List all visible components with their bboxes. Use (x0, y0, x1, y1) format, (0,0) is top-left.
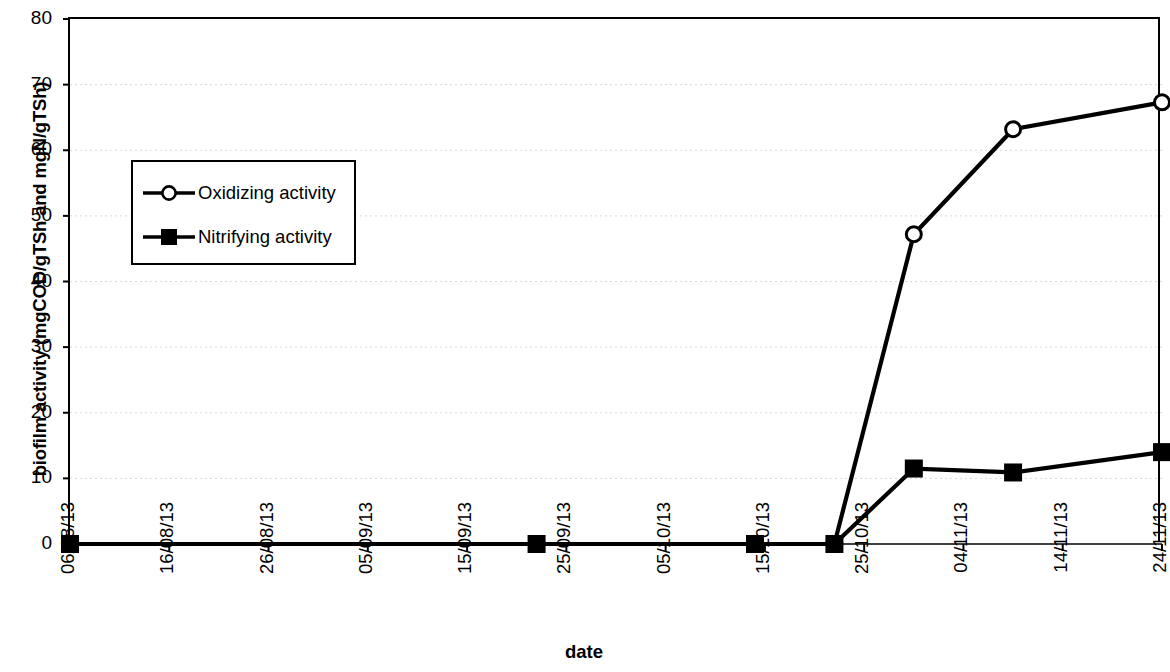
open-circle-marker-icon (141, 182, 197, 204)
x-axis-tick-label: 15/09/13 (456, 502, 474, 612)
y-axis-tick-label: 40 (6, 270, 52, 289)
legend-item-oxidizing: Oxidizing activity (141, 180, 336, 206)
data-point-oxidizing (1155, 95, 1170, 110)
x-axis-tick-label: 05/09/13 (357, 502, 375, 612)
x-axis-tick-label: 24/11/13 (1151, 502, 1169, 612)
data-point-nitrifying (906, 461, 922, 477)
plot-svg (70, 19, 1162, 544)
data-point-oxidizing (1006, 122, 1021, 137)
series-line-nitrifying (70, 452, 1162, 544)
x-axis-tick-label: 26/08/13 (258, 502, 276, 612)
data-point-nitrifying (1005, 464, 1021, 480)
x-axis-title: date (0, 641, 1168, 663)
x-axis-tick-label: 25/10/13 (853, 502, 871, 612)
x-axis-tick-label: 16/08/13 (158, 502, 176, 612)
y-axis-tick-label: 60 (6, 139, 52, 158)
y-axis-tick-label: 50 (6, 204, 52, 223)
y-axis-tick-label: 10 (6, 467, 52, 486)
x-axis-tick-label: 15/10/13 (754, 502, 772, 612)
y-axis-tick-label: 20 (6, 401, 52, 420)
legend-label-nitrifying: Nitrifying activity (198, 228, 332, 247)
filled-square-marker-icon (141, 226, 197, 248)
x-axis-tick-labels: 06/08/1316/08/1326/08/1305/09/1315/09/13… (0, 548, 1168, 648)
x-axis-tick-label: 06/08/13 (59, 502, 77, 612)
plot-area (68, 17, 1160, 542)
x-axis-tick-label: 14/11/13 (1052, 502, 1070, 612)
series-layer (62, 19, 1170, 552)
y-axis-tick-label: 30 (6, 336, 52, 355)
y-axis-tick-label: 70 (6, 73, 52, 92)
legend-item-nitrifying: Nitrifying activity (141, 224, 332, 250)
legend-label-oxidizing: Oxidizing activity (198, 184, 336, 203)
x-axis-tick-label: 05/10/13 (655, 502, 673, 612)
data-point-oxidizing (906, 227, 921, 242)
y-axis-tick-label: 80 (6, 8, 52, 27)
chart-legend: Oxidizing activity Nitrifying activity (131, 160, 356, 265)
x-axis-tick-label: 25/09/13 (555, 502, 573, 612)
data-point-nitrifying (1154, 444, 1170, 460)
x-axis-tick-label: 04/11/13 (952, 502, 970, 612)
